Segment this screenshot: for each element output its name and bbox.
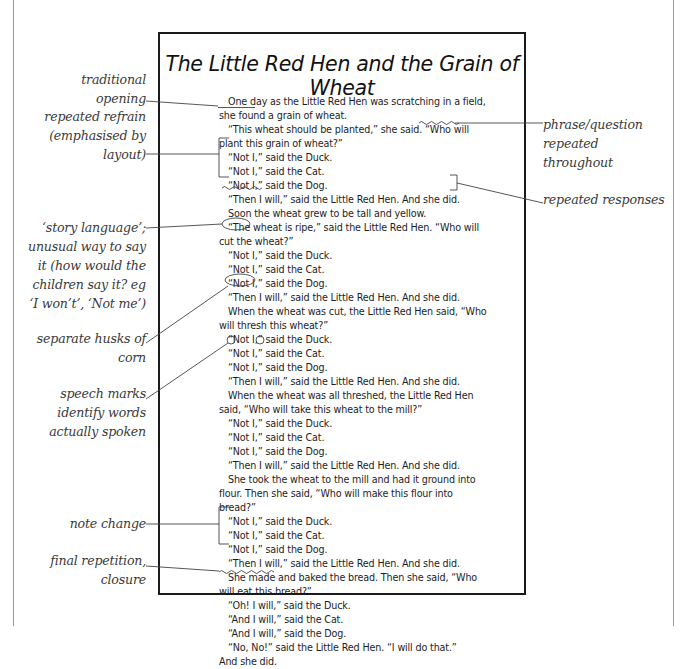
story-line: “Then I will,” said the Little Red Hen. … xyxy=(219,375,519,389)
story-line: said, “Who will take this wheat to the m… xyxy=(219,403,519,417)
left-margin-rule xyxy=(13,0,14,626)
story-line: will thresh this wheat?” xyxy=(219,319,519,333)
story-line: She took the wheat to the mill and had i… xyxy=(219,473,519,487)
right-margin-rule xyxy=(673,0,674,626)
story-line: “Not I,” said the Dog. xyxy=(219,543,519,557)
story-line: “Not I,” said the Duck. xyxy=(219,249,519,263)
story-line: “Not I,” said the Dog. xyxy=(219,179,519,193)
story-line: And she did. xyxy=(219,655,519,669)
story-line: One day as the Little Red Hen was scratc… xyxy=(219,95,519,109)
story-line: “The wheat is ripe,” said the Little Red… xyxy=(219,221,519,235)
story-line: “Not I,” said the Cat. xyxy=(219,347,519,361)
story-line: “Not I,” said the Dog. xyxy=(219,277,519,291)
annotation-repeated-responses: repeated responses xyxy=(543,190,665,209)
story-line: “This wheat should be planted,” she said… xyxy=(219,123,519,137)
story-line: “Then I will,” said the Little Red Hen. … xyxy=(219,557,519,571)
story-title: The Little Red Hen and the Grain of Whea… xyxy=(160,52,524,100)
annotation-final-repetition: final repetition, closure xyxy=(50,551,146,589)
story-line: She made and baked the bread. Then she s… xyxy=(219,571,519,585)
annotation-traditional-opening: traditional opening xyxy=(81,70,146,108)
story-line: “Not I,” said the Duck. xyxy=(219,333,519,347)
story-line: “Not I,” said the Duck. xyxy=(219,151,519,165)
story-line: “Then I will,” said the Little Red Hen. … xyxy=(219,291,519,305)
story-line: “Not I,” said the Dog. xyxy=(219,445,519,459)
story-line: plant this grain of wheat?” xyxy=(219,137,519,151)
annotation-speech-marks: speech marks identify words actually spo… xyxy=(49,384,146,441)
story-line: “And I will,” said the Cat. xyxy=(219,613,519,627)
story-line: “Not I,” said the Cat. xyxy=(219,529,519,543)
story-line: cut the wheat?” xyxy=(219,235,519,249)
story-frame: The Little Red Hen and the Grain of Whea… xyxy=(158,32,526,595)
story-line: “And I will,” said the Dog. xyxy=(219,627,519,641)
story-line: “Not I,” said the Duck. xyxy=(219,515,519,529)
story-line: “Not I,” said the Cat. xyxy=(219,263,519,277)
story-line: “Not I,” said the Cat. xyxy=(219,165,519,179)
story-line: bread?” xyxy=(219,501,519,515)
story-line: When the wheat was cut, the Little Red H… xyxy=(219,305,519,319)
story-line: “Oh! I will,” said the Duck. xyxy=(219,599,519,613)
story-line: “No, No!” said the Little Red Hen. “I wi… xyxy=(219,641,519,655)
annotation-story-language: ‘story language’; unusual way to say it … xyxy=(28,218,146,313)
story-line: “Not I,” said the Dog. xyxy=(219,361,519,375)
story-line: she found a grain of wheat. xyxy=(219,109,519,123)
annotation-separate-husks: separate husks of corn xyxy=(37,329,146,367)
story-line: will eat this bread?” xyxy=(219,585,519,599)
story-line: “Not I,” said the Duck. xyxy=(219,417,519,431)
story-line: “Then I will,” said the Little Red Hen. … xyxy=(219,193,519,207)
story-line: “Not I,” said the Cat. xyxy=(219,431,519,445)
annotation-note-change: note change xyxy=(70,514,146,533)
story-line: “Then I will,” said the Little Red Hen. … xyxy=(219,459,519,473)
annotation-repeated-refrain: repeated refrain (emphasised by layout) xyxy=(44,107,146,164)
story-text: One day as the Little Red Hen was scratc… xyxy=(219,95,519,669)
story-line: flour. Then she said, “Who will make thi… xyxy=(219,487,519,501)
story-line: When the wheat was all threshed, the Lit… xyxy=(219,389,519,403)
story-line: Soon the wheat grew to be tall and yello… xyxy=(219,207,519,221)
annotation-phrase-question: phrase/question repeated throughout xyxy=(543,115,643,172)
